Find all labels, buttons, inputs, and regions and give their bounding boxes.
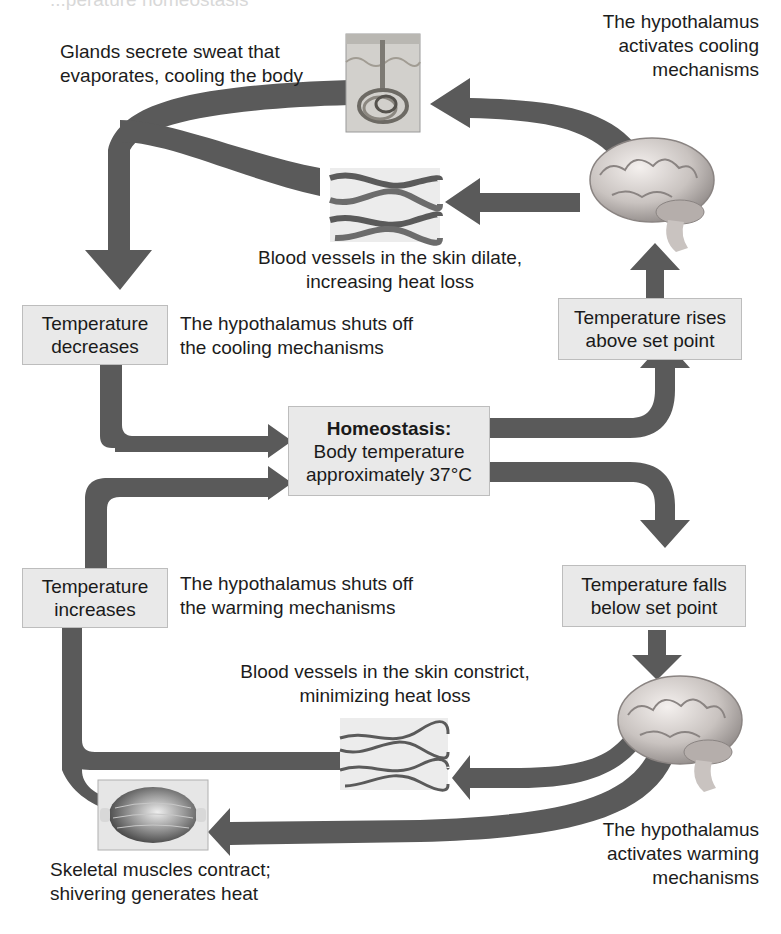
vessels-dilate-label: Blood vessels in the skin dilate, increa… bbox=[240, 246, 540, 294]
hypothalamus-warming-label: The hypothalamus activates warming mecha… bbox=[603, 818, 759, 890]
constricted-blood-vessels-illustration bbox=[340, 718, 448, 790]
sweat-glands-label: Glands secrete sweat that evaporates, co… bbox=[60, 40, 303, 88]
hypothalamus-cooling-label: The hypothalamus activates cooling mecha… bbox=[603, 10, 759, 82]
shivering-label: Skeletal muscles contract; shivering gen… bbox=[50, 858, 271, 906]
temperature-increases-box: Temperature increases bbox=[22, 568, 168, 628]
shuts-off-cooling-label: The hypothalamus shuts off the cooling m… bbox=[180, 312, 413, 360]
shuts-off-warming-label: The hypothalamus shuts off the warming m… bbox=[180, 572, 413, 620]
dilated-blood-vessels-illustration bbox=[330, 168, 440, 243]
skeletal-muscle-illustration bbox=[98, 780, 208, 850]
vessels-constrict-label: Blood vessels in the skin constrict, min… bbox=[220, 660, 550, 708]
homeostasis-box: Homeostasis: Body temperature approximat… bbox=[288, 406, 490, 496]
temperature-decreases-box: Temperature decreases bbox=[22, 305, 168, 365]
brain-illustration bbox=[590, 138, 714, 252]
page-header-fragment: ...perature homeostasis bbox=[50, 0, 249, 12]
temperature-falls-box: Temperature falls below set point bbox=[562, 565, 746, 627]
sweat-gland-illustration bbox=[346, 34, 420, 132]
temperature-rises-box: Temperature rises above set point bbox=[558, 298, 742, 360]
